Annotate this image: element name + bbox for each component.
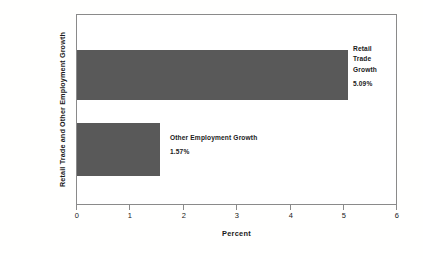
x-axis-title: Percent bbox=[76, 229, 397, 238]
x-tick-mark-5 bbox=[343, 205, 344, 210]
x-tick-mark-6 bbox=[396, 205, 397, 210]
x-tick-mark-2 bbox=[183, 205, 184, 210]
bar-retail-trade-growth bbox=[77, 50, 348, 100]
x-tick-mark-4 bbox=[290, 205, 291, 210]
x-tick-label-5: 5 bbox=[329, 211, 359, 220]
bar-other-employment-growth bbox=[77, 123, 160, 176]
annotation-retail-line-1: Retail bbox=[353, 44, 377, 54]
x-tick-mark-0 bbox=[76, 205, 77, 210]
annotation-retail-value: 5.09% bbox=[353, 79, 377, 89]
y-axis-title: Retail Trade and Other Employment Growth bbox=[56, 14, 70, 205]
x-tick-label-4: 4 bbox=[276, 211, 306, 220]
plot-area bbox=[76, 14, 397, 205]
annotation-retail-line-3: Growth bbox=[353, 65, 377, 75]
x-tick-mark-3 bbox=[236, 205, 237, 210]
x-tick-label-0: 0 bbox=[62, 211, 92, 220]
annotation-other-employment-growth: Other Employment Growth 1.57% bbox=[170, 133, 257, 157]
annotation-retail-line-2: Trade bbox=[353, 54, 377, 64]
annotation-retail-trade-growth: Retail Trade Growth 5.09% bbox=[353, 44, 377, 89]
x-tick-label-6: 6 bbox=[382, 211, 412, 220]
bar-chart: Retail Trade and Other Employment Growth… bbox=[0, 0, 423, 259]
x-tick-mark-1 bbox=[129, 205, 130, 210]
annotation-other-line-1: Other Employment Growth bbox=[170, 133, 257, 143]
x-tick-label-3: 3 bbox=[222, 211, 252, 220]
x-tick-label-2: 2 bbox=[169, 211, 199, 220]
x-tick-label-1: 1 bbox=[115, 211, 145, 220]
annotation-other-value: 1.57% bbox=[170, 147, 257, 157]
